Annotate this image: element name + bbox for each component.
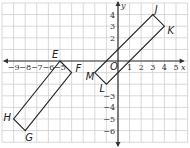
x-tick-label: 4 xyxy=(162,63,167,72)
x-tick-label: −5 xyxy=(54,63,66,72)
origin-label: O xyxy=(110,61,118,72)
y-axis-arrow-up-icon xyxy=(116,1,121,6)
x-tick-label: −7 xyxy=(31,63,43,72)
vertex-label-k: K xyxy=(167,25,175,36)
vertex-label-h: H xyxy=(4,112,12,123)
y-tick-label: −4 xyxy=(103,103,115,112)
y-tick-label: −6 xyxy=(103,127,115,136)
vertex-label-m: M xyxy=(86,71,95,82)
y-tick-label: 4 xyxy=(110,11,115,20)
x-tick-label: 2 xyxy=(139,63,144,72)
vertex-label-g: G xyxy=(25,132,33,143)
vertex-label-l: L xyxy=(99,83,105,94)
y-tick-label: −5 xyxy=(103,115,115,124)
x-tick-label: 5 xyxy=(173,63,178,72)
y-tick-label: 3 xyxy=(110,22,115,31)
x-tick-label: −9 xyxy=(8,63,20,72)
y-axis-label: y xyxy=(120,1,126,10)
y-tick-label: 2 xyxy=(110,34,115,43)
x-tick-label: 1 xyxy=(127,63,132,72)
x-axis-label: x xyxy=(181,63,186,72)
y-axis-arrow-down-icon xyxy=(116,142,121,147)
vertex-label-f: F xyxy=(76,63,82,74)
coordinate-grid: −9−8−7−6−512345432−3−4−5−6xyOJKEFGHML xyxy=(0,0,190,148)
vertex-label-j: J xyxy=(153,4,158,15)
x-tick-label: −8 xyxy=(19,63,31,72)
vertex-label-e: E xyxy=(52,49,59,60)
x-tick-label: 3 xyxy=(150,63,155,72)
